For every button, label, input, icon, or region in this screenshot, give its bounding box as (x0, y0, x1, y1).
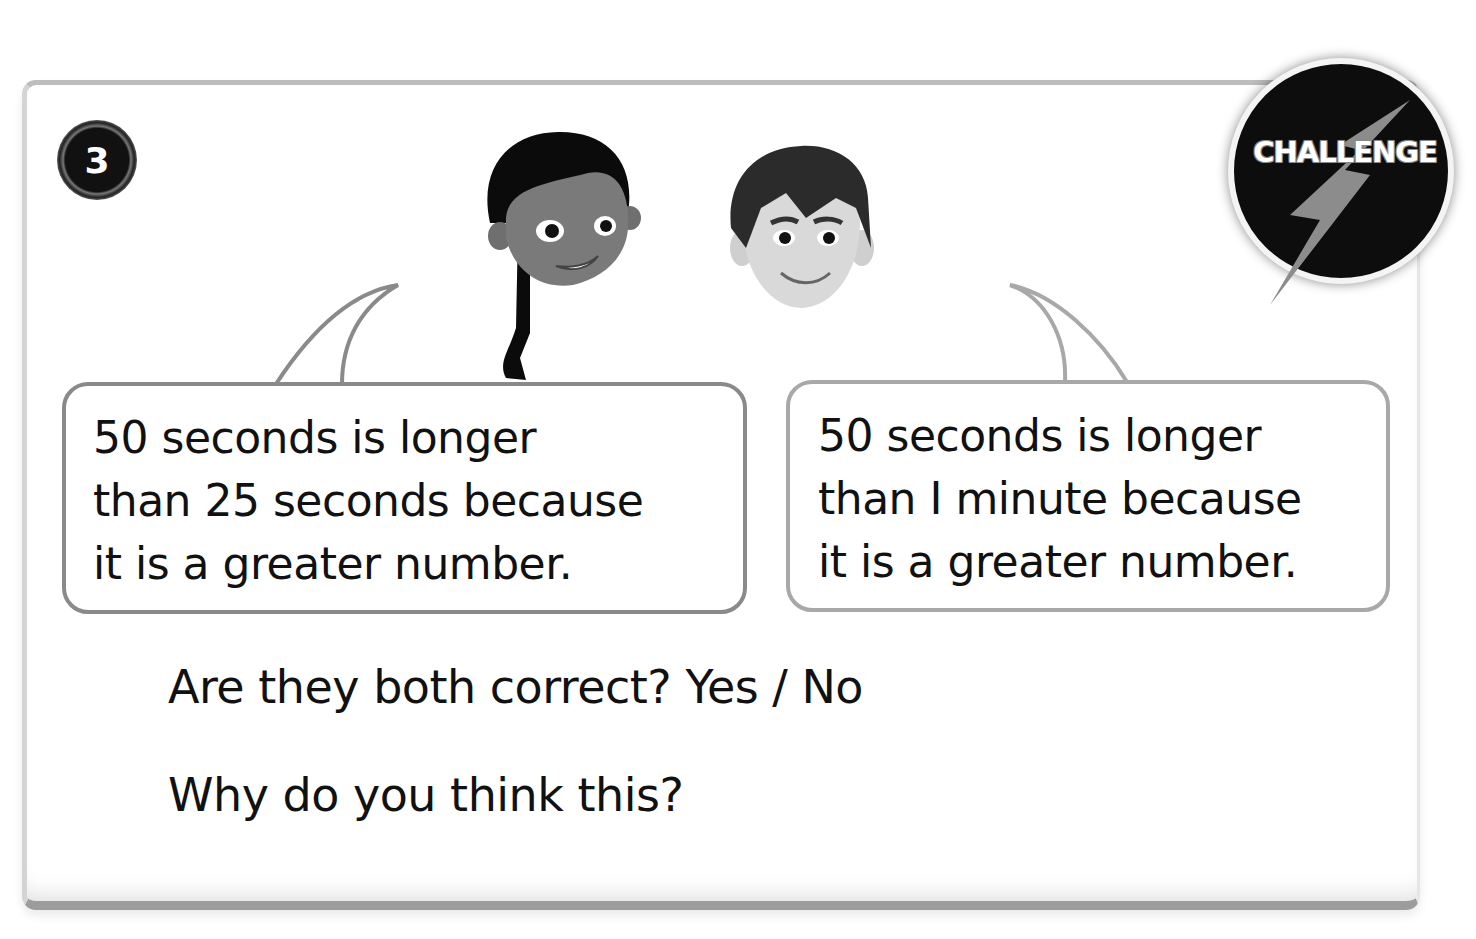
speech-tail-right (1005, 282, 1135, 386)
speech-bubble-boy: 50 seconds is longer than I minute becau… (786, 380, 1390, 612)
speech-line: than 25 seconds because (93, 469, 743, 532)
speech-line: it is a greater number. (93, 532, 743, 595)
speech-line: 50 seconds is longer (93, 406, 743, 469)
speech-line: 50 seconds is longer (818, 404, 1386, 467)
question-prompt-why: Why do you think this? (168, 768, 683, 822)
speech-tail-left (270, 282, 410, 386)
boy-character-illustration (726, 138, 876, 313)
challenge-label: CHALLENGE (1250, 135, 1440, 169)
speech-line: than I minute because (818, 467, 1386, 530)
speech-line: it is a greater number. (818, 530, 1386, 593)
lightning-bolt-icon (1250, 95, 1430, 315)
girl-character-illustration (478, 128, 648, 383)
speech-bubble-girl: 50 seconds is longer than 25 seconds bec… (62, 382, 747, 614)
question-prompt-correct: Are they both correct? Yes / No (168, 660, 863, 714)
question-number: 3 (84, 140, 109, 181)
question-number-badge: 3 (57, 120, 137, 200)
